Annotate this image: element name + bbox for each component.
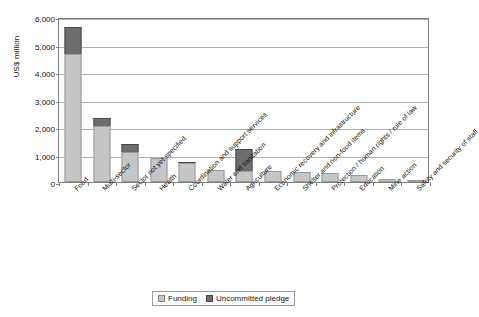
legend-label: Uncommitted pledge	[216, 294, 289, 303]
y-tick-label: 5,000	[35, 42, 55, 51]
bar-group[interactable]	[59, 19, 88, 182]
bar-group[interactable]	[173, 19, 202, 182]
x-tick-mark	[373, 182, 374, 186]
x-tick-mark	[116, 182, 117, 186]
x-tick-mark	[173, 182, 174, 186]
legend-swatch-icon	[206, 295, 213, 302]
bar-group[interactable]	[259, 19, 288, 182]
y-tick-label: 2,000	[35, 125, 55, 134]
legend-item[interactable]: Funding	[158, 294, 197, 303]
bar-group[interactable]	[88, 19, 117, 182]
y-tick-label: 1,000	[35, 152, 55, 161]
bar-segment-uncommitted-pledge[interactable]	[65, 27, 82, 54]
x-tick-mark	[316, 182, 317, 186]
x-axis-labels: FoodMulti-sectorSector not yet specified…	[58, 187, 429, 287]
x-tick-mark	[230, 182, 231, 186]
bar-segment-uncommitted-pledge[interactable]	[93, 118, 110, 126]
y-tick-label: 0	[51, 180, 55, 189]
x-tick-mark	[401, 182, 402, 186]
x-tick-mark	[430, 182, 431, 186]
x-tick-mark	[145, 182, 146, 186]
chart-legend: FundingUncommitted pledge	[152, 291, 295, 306]
bar-stack[interactable]	[65, 27, 82, 182]
bar-stack[interactable]	[93, 118, 110, 182]
y-tick-label: 6,000	[35, 15, 55, 24]
x-tick-mark	[344, 182, 345, 186]
legend-label: Funding	[168, 294, 197, 303]
bar-segment-uncommitted-pledge[interactable]	[122, 144, 139, 152]
legend-item[interactable]: Uncommitted pledge	[206, 294, 289, 303]
y-tick-label: 3,000	[35, 97, 55, 106]
legend-swatch-icon	[158, 295, 165, 302]
bar-segment-funding[interactable]	[93, 126, 110, 182]
x-tick-mark	[202, 182, 203, 186]
bar-group[interactable]	[116, 19, 145, 182]
bar-group[interactable]	[401, 19, 430, 182]
x-tick-mark	[88, 182, 89, 186]
bar-group[interactable]	[373, 19, 402, 182]
y-tick-label: 4,000	[35, 70, 55, 79]
x-tick-mark	[259, 182, 260, 186]
y-axis-title: US$ million	[12, 0, 21, 117]
x-tick-mark	[287, 182, 288, 186]
bar-segment-funding[interactable]	[65, 54, 82, 182]
x-tick-mark	[59, 182, 60, 186]
